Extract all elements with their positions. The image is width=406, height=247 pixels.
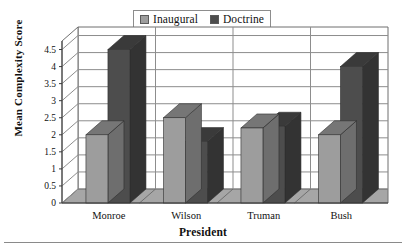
y-tick-label: 0 xyxy=(51,198,56,208)
y-tick-label: 4 xyxy=(51,62,56,72)
bottom-divider xyxy=(4,242,402,243)
bar-bush-doctrine-side xyxy=(362,53,378,203)
bar-bush-inaugural xyxy=(318,135,340,203)
y-tick-label: 1 xyxy=(51,164,56,174)
x-tick-label: Monroe xyxy=(92,210,126,221)
y-tick-label: 2.5 xyxy=(44,113,56,123)
x-tick-label: Wilson xyxy=(171,210,202,221)
bar-chart: Inaugural Doctrine Mean Complexity Score… xyxy=(0,0,406,247)
bar-wilson-inaugural xyxy=(163,118,185,203)
y-tick-label: 3.5 xyxy=(44,79,56,89)
x-tick-label: Bush xyxy=(330,210,352,221)
bar-monroe-inaugural-side xyxy=(108,121,124,203)
bar-truman-inaugural-side xyxy=(263,114,279,203)
y-tick-label: 1.5 xyxy=(44,147,56,157)
y-tick-label: 4.5 xyxy=(44,45,56,55)
y-tick-label: 0.5 xyxy=(44,181,56,191)
bar-wilson-inaugural-side xyxy=(185,104,201,203)
y-tick-label: 2 xyxy=(51,130,56,140)
y-tick-label: 3 xyxy=(51,96,56,106)
bar-monroe-inaugural xyxy=(86,135,108,203)
bar-truman-doctrine-side xyxy=(285,112,301,203)
bar-bush-inaugural-side xyxy=(340,121,356,203)
x-tick-label: Truman xyxy=(247,210,281,221)
bar-truman-inaugural xyxy=(241,128,263,203)
bar-monroe-doctrine-side xyxy=(130,36,146,203)
plot-area: 00.511.522.533.544.5MonroeWilsonTrumanBu… xyxy=(0,0,406,247)
